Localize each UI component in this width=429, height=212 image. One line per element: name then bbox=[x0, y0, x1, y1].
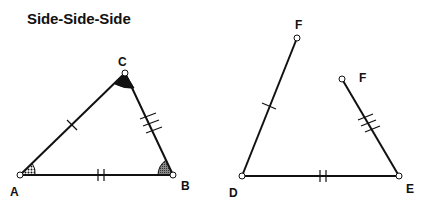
ticks-ef bbox=[358, 114, 380, 132]
side-ef bbox=[342, 79, 399, 176]
vertex-a bbox=[17, 172, 23, 178]
label-e: E bbox=[406, 182, 414, 196]
vertex-b bbox=[170, 172, 176, 178]
label-b: B bbox=[181, 179, 190, 193]
label-d: D bbox=[229, 186, 238, 200]
side-df bbox=[242, 38, 297, 176]
vertex-e bbox=[396, 173, 402, 179]
vertex-c bbox=[122, 70, 128, 76]
vertex-f1 bbox=[294, 35, 300, 41]
vertex-f2 bbox=[339, 76, 345, 82]
vertex-d bbox=[239, 173, 245, 179]
triangle-abc: A B C bbox=[10, 55, 190, 199]
label-f1: F bbox=[295, 18, 302, 32]
label-a: A bbox=[10, 185, 19, 199]
side-ac bbox=[20, 73, 125, 175]
sss-diagram: A B C D E F F bbox=[0, 0, 429, 212]
label-c: C bbox=[118, 55, 127, 69]
label-f2: F bbox=[359, 71, 366, 85]
segments-def: D E F F bbox=[229, 18, 414, 200]
